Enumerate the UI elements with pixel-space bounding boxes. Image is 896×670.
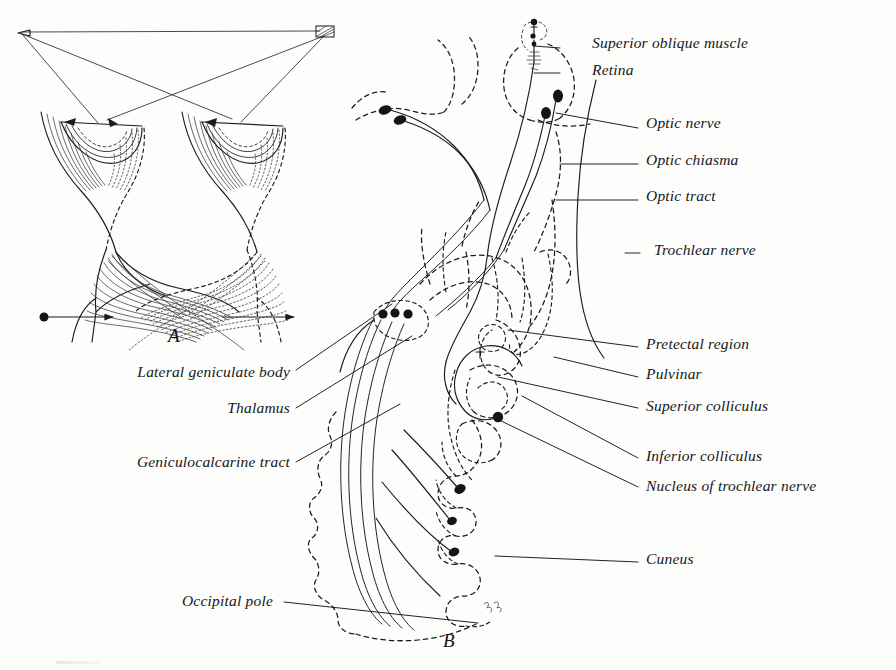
label-geniculocalcarine-tract: Geniculocalcarine tract <box>137 454 290 470</box>
panel-b-diagram <box>308 19 604 641</box>
panel-a-left-eye <box>41 112 144 252</box>
label-occipital-pole: Occipital pole <box>182 593 273 609</box>
label-optic-nerve: Optic nerve <box>646 115 721 131</box>
label-lateral-geniculate-body: Lateral geniculate body <box>137 364 290 380</box>
label-thalamus: Thalamus <box>227 400 290 416</box>
label-inferior-colliculus: Inferior colliculus <box>646 448 762 464</box>
panel-a-right-eye <box>182 112 285 252</box>
label-superior-colliculus: Superior colliculus <box>646 398 768 414</box>
scan-artifact <box>56 661 102 664</box>
figure-canvas: .sol { fill:none; stroke:#1b1b1f; stroke… <box>0 0 896 670</box>
panel-letter-a: A <box>168 325 180 347</box>
panel-b-colliculi <box>448 365 518 480</box>
panel-a-diagram <box>18 26 334 350</box>
panel-a-right-target-rays <box>107 36 324 122</box>
label-superior-oblique-muscle: Superior oblique muscle <box>592 35 748 51</box>
leader-line-geniculocalcarine-tract <box>296 404 400 462</box>
leader-line-nucleus-of-trochlear-nerve <box>497 419 638 487</box>
leader-line-pulvinar <box>554 357 638 377</box>
label-pretectal-region: Pretectal region <box>646 336 749 352</box>
leader-lines <box>284 46 640 623</box>
label-optic-tract: Optic tract <box>646 188 716 204</box>
panel-b-pretectal-region <box>476 325 506 359</box>
leader-line-superior-oblique-muscle <box>534 46 560 48</box>
label-optic-chiasma: Optic chiasma <box>646 152 739 168</box>
label-retina: Retina <box>592 62 634 78</box>
leader-line-superior-colliculus <box>498 377 638 408</box>
label-pulvinar: Pulvinar <box>646 366 702 382</box>
leader-line-optic-nerve <box>556 113 638 128</box>
panel-b-optic-tract-and-lgb <box>340 200 504 630</box>
panel-b-left-eye-stub <box>352 36 490 210</box>
panel-a-horizon-line <box>22 31 320 32</box>
panel-b-right-eye-and-muscle <box>488 19 574 258</box>
panel-a-optic-chiasm <box>72 250 288 350</box>
panel-b-occipital-lobe <box>308 412 501 641</box>
leader-line-thalamus <box>296 336 412 408</box>
panel-letter-b: B <box>443 630 455 652</box>
panel-b-thalamus <box>420 252 531 375</box>
leader-line-cuneus <box>495 556 638 562</box>
label-trochlear-nerve: Trochlear nerve <box>654 242 756 258</box>
panel-a-direction-arrows <box>40 313 295 322</box>
leader-line-inferior-colliculus <box>522 396 638 458</box>
label-nucleus-of-trochlear-nerve: Nucleus of trochlear nerve <box>646 478 816 494</box>
panel-a-left-target-rays <box>22 34 232 123</box>
leader-line-pretectal-region <box>508 330 638 347</box>
label-cuneus: Cuneus <box>646 551 694 567</box>
leader-line-occipital-pole <box>284 602 478 623</box>
panel-b-trochlear-nerve-path <box>444 250 522 420</box>
